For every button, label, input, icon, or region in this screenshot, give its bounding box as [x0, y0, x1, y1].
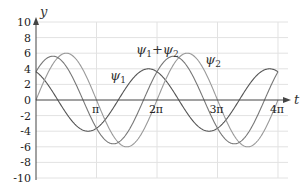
y-axis-label: y [39, 4, 48, 19]
axes: y t [33, 4, 300, 180]
y-tick-label: -4 [20, 125, 31, 138]
y-tick-label: 6 [24, 47, 31, 60]
line-chart: y t 1086420-2-4-6-8-10π2π3π4π ψ1ψ2ψ1+ψ2 [0, 0, 305, 193]
x-axis-arrow-icon [283, 97, 291, 103]
y-tick-label: 10 [17, 16, 31, 29]
y-tick-label: -10 [13, 172, 31, 185]
x-axis-label: t [294, 92, 300, 107]
x-tick-label: 2π [149, 103, 163, 116]
x-tick-label: 4π [270, 103, 284, 116]
y-tick-label: 8 [24, 32, 31, 45]
y-tick-label: -2 [20, 110, 31, 123]
series-label: ψ2 [205, 52, 221, 69]
y-tick-label: 4 [24, 63, 31, 76]
series-labels: ψ1ψ2ψ1+ψ2 [110, 42, 221, 85]
y-axis-arrow-icon [33, 17, 39, 25]
series-label: ψ1 [110, 68, 126, 85]
y-tick-label: 0 [24, 94, 31, 107]
y-tick-label: -6 [20, 141, 31, 154]
y-tick-label: -8 [20, 156, 31, 169]
x-tick-label: 3π [209, 103, 223, 116]
x-tick-label: π [92, 103, 99, 116]
series-label: ψ1+ψ2 [136, 42, 179, 59]
y-tick-label: 2 [24, 78, 31, 91]
